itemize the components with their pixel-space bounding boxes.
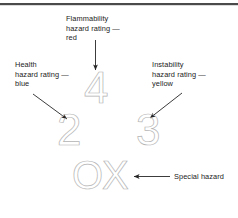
flammability-label-line3: red [66, 33, 77, 42]
flammability-label-line1: Flammability [66, 14, 108, 23]
health-label-line1: Health [15, 60, 37, 69]
special-hazard-glyph: OX [72, 155, 128, 195]
top-rule [0, 3, 238, 5]
special-hazard-label: Special hazard [174, 172, 224, 181]
flammability-rating-glyph: 4 [84, 66, 108, 110]
health-label-line3: blue [15, 79, 29, 88]
nfpa-hazard-rating-diagram: 4 2 3 OX Flammability hazard rating — re… [0, 0, 238, 218]
instability-label-line2: hazard rating — [152, 70, 206, 79]
instability-rating-glyph: 3 [136, 108, 160, 152]
instability-label-line3: yellow [152, 79, 173, 88]
health-rating-glyph: 2 [57, 108, 81, 152]
health-label-line2: hazard rating — [15, 70, 69, 79]
instability-label-line1: Instability [152, 60, 184, 69]
flammability-label-line2: hazard rating — [66, 24, 120, 33]
